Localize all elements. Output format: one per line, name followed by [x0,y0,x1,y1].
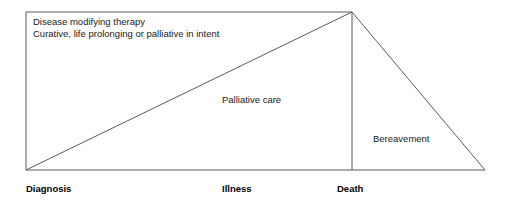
axis-label-diagnosis: Diagnosis [26,183,71,194]
axis-label-illness: Illness [222,183,252,194]
bereavement-label: Bereavement [373,133,430,144]
disease-therapy-line2-label: Curative, life prolonging or palliative … [33,28,220,39]
bereavement-diagonal-line [352,12,485,170]
palliative-care-label: Palliative care [222,94,281,105]
diagram-root: Disease modifying therapy Curative, life… [0,0,506,207]
diagram-svg-canvas: Disease modifying therapy Curative, life… [0,0,506,207]
axis-label-death: Death [337,183,364,194]
disease-therapy-line1-label: Disease modifying therapy [33,16,145,27]
